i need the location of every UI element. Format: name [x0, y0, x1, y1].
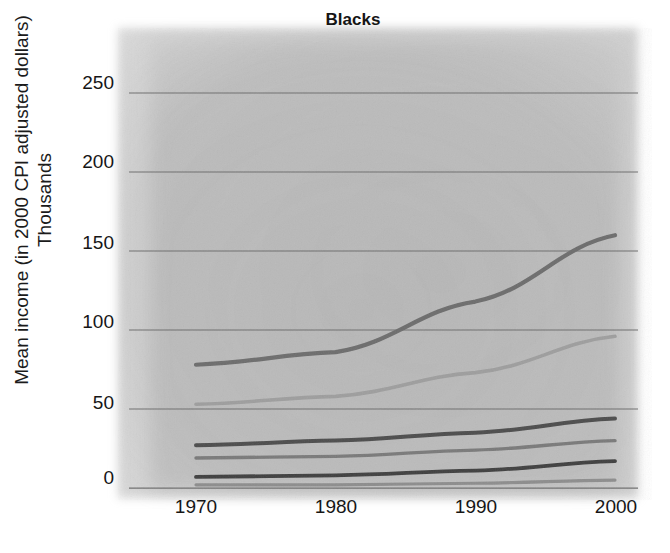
scan-edge-fade — [600, 28, 670, 553]
scan-grain-overlay — [118, 28, 652, 500]
chart-figure: Blacks Mean income (in 2000 CPI adjusted… — [0, 0, 670, 553]
plot-area — [0, 0, 670, 553]
